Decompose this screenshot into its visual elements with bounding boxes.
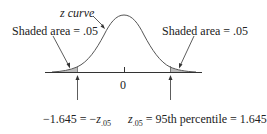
left-value-subscript: .05	[101, 119, 111, 128]
left-tail-pointer-arrow	[53, 36, 69, 66]
left-tail-pointer-arrowhead	[67, 63, 71, 69]
right-value-subscript: .05	[133, 119, 143, 128]
curve-pointer-arrowhead	[101, 24, 106, 29]
left-shaded-area-label: Shaded area = .05	[12, 25, 98, 37]
right-tail-pointer-arrowhead	[179, 63, 183, 69]
z-curve-label: z curve	[60, 7, 94, 19]
right-critical-value-label: z.05 = 95th percentile = 1.645	[128, 113, 267, 128]
right-value-arrowhead	[169, 75, 173, 80]
left-critical-value-label: −1.645 = −z.05	[43, 113, 111, 128]
z-curve-figure: z curve Shaded area = .05 Shaded area = …	[0, 0, 267, 134]
zero-tick-label: 0	[120, 79, 126, 91]
right-value-suffix: = 95th percentile = 1.645	[143, 112, 267, 126]
right-shaded-area-label: Shaded area = .05	[162, 25, 248, 37]
right-tail-pointer-arrow	[180, 36, 194, 66]
left-value-arrowhead	[76, 75, 80, 80]
left-value-prefix: −1.645 = −	[43, 112, 96, 126]
